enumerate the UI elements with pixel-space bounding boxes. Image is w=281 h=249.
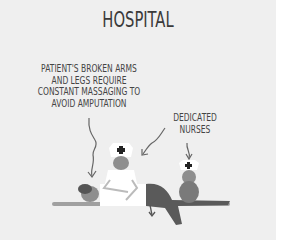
nurse-small-icon	[179, 160, 199, 203]
illustration-panel: HOSPITAL PATIENT'S BROKEN ARMS AND LEGS …	[0, 0, 276, 240]
hospital-scene-illustration	[0, 0, 281, 249]
arrow-nurse-big-icon	[143, 128, 165, 154]
arrow-patient-icon	[89, 118, 96, 176]
